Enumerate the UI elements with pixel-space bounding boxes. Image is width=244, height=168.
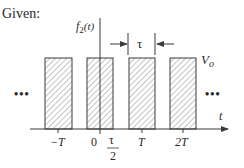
tick-marks [58,129,183,133]
pulse-2T [170,58,196,129]
pulse-train [45,58,196,129]
pulse-minus-T [45,58,72,129]
tick-label-zero: 0 [91,135,97,149]
right-ellipsis: ••• [205,87,221,101]
svg-text:2: 2 [110,149,116,163]
svg-text:τ: τ [109,133,114,147]
tick-label-tau-over-2: τ 2 [107,133,119,163]
given-label: Given: [2,6,40,21]
tick-label-T: T [138,135,146,149]
amplitude-label: Vo [201,52,214,69]
left-ellipsis: ••• [14,87,30,101]
pulse-T [129,58,155,129]
tick-label-2T: 2T [175,135,189,149]
periodic-pulse-train-diagram: Given: f2(t) τ Vo ••• ••• t −T 0 τ [0,0,244,168]
tick-label-minus-T: −T [50,135,66,149]
pulse-width-dimension: τ [110,33,174,55]
function-label: f2(t) [76,19,95,35]
tau-label: τ [137,36,142,51]
t-axis-label: t [219,109,223,123]
